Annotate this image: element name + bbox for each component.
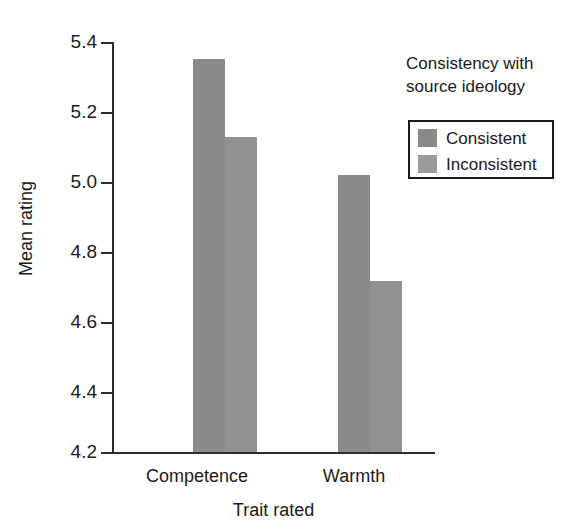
y-tick-5.4: 5.4 [0,42,113,44]
bar-competence-inconsistent [225,137,257,452]
y-tick-label: 4.2 [39,442,97,461]
y-tick-4.6: 4.6 [0,322,113,324]
legend-entry-inconsistent: Inconsistent [418,152,537,176]
y-tick-label: 4.6 [39,312,97,331]
legend-box: Consistent Inconsistent [408,120,554,179]
x-category-label-competence: Competence [133,466,261,487]
legend-title-line-1: Consistency with [406,52,576,75]
y-tick-label: 4.8 [39,242,97,261]
legend-label-consistent: Consistent [446,130,526,147]
y-tick-4.2: 4.2 [0,452,113,454]
bar-warmth-consistent [338,175,370,452]
x-category-label-warmth: Warmth [290,466,418,487]
x-axis-title: Trait rated [112,500,435,521]
y-tick-label: 4.4 [39,382,97,401]
legend-swatch-icon-inconsistent [418,155,437,173]
y-tick-4.4: 4.4 [0,392,113,394]
tick-mark [101,452,113,454]
y-axis-title: Mean rating [16,159,37,299]
legend-title-line-2: source ideology [406,75,576,98]
bar-chart-figure: 5.4 5.2 5.0 4.8 4.6 4.4 4.2 Mean rating … [0,0,581,532]
y-tick-label: 5.2 [39,102,97,121]
legend-label-inconsistent: Inconsistent [446,156,537,173]
plot-area [112,42,435,452]
bar-warmth-inconsistent [370,281,402,452]
legend-title: Consistency with source ideology [406,52,576,98]
legend-entry-consistent: Consistent [418,126,526,150]
bar-competence-consistent [193,59,225,452]
y-tick-5.2: 5.2 [0,112,113,114]
x-axis-line [112,452,435,454]
y-tick-label: 5.0 [39,172,97,191]
legend-swatch-icon-consistent [418,129,437,147]
y-tick-label: 5.4 [39,32,97,51]
